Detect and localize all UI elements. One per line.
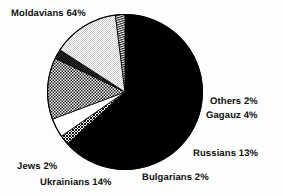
pie-slices-group <box>48 15 203 170</box>
pie-chart-figure: Moldavians 64% Others 2% Gagauz 4% Russi… <box>0 0 283 196</box>
pie-label-bulgarians: Bulgarians 2% <box>142 172 209 183</box>
pie-label-russians: Russians 13% <box>193 148 258 159</box>
pie-label-gagauz: Gagauz 4% <box>206 110 258 121</box>
pie-label-jews: Jews 2% <box>17 161 57 172</box>
pie-label-moldavians: Moldavians 64% <box>11 8 86 19</box>
pie-label-ukrainians: Ukrainians 14% <box>40 177 112 188</box>
pie-label-others: Others 2% <box>210 96 258 107</box>
